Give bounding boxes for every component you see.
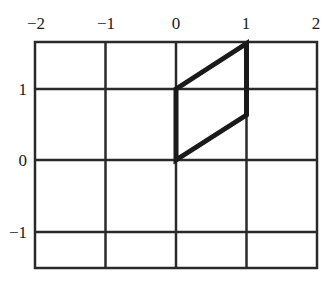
y-tick-neg1: −1: [9, 223, 27, 242]
x-tick-1: 1: [242, 14, 251, 33]
parallelogram-shape: [176, 44, 247, 161]
y-tick-labels: 1 0 −1: [9, 80, 27, 242]
coordinate-grid-figure: −2 −1 0 1 2 1 0 −1: [0, 0, 330, 282]
x-tick-2: 2: [312, 14, 321, 33]
x-tick-0: 0: [172, 14, 181, 33]
x-tick-neg2: −2: [27, 14, 45, 33]
x-tick-neg1: −1: [97, 14, 115, 33]
y-tick-1: 1: [19, 80, 28, 99]
y-tick-0: 0: [19, 151, 28, 170]
x-tick-labels: −2 −1 0 1 2: [27, 14, 320, 33]
